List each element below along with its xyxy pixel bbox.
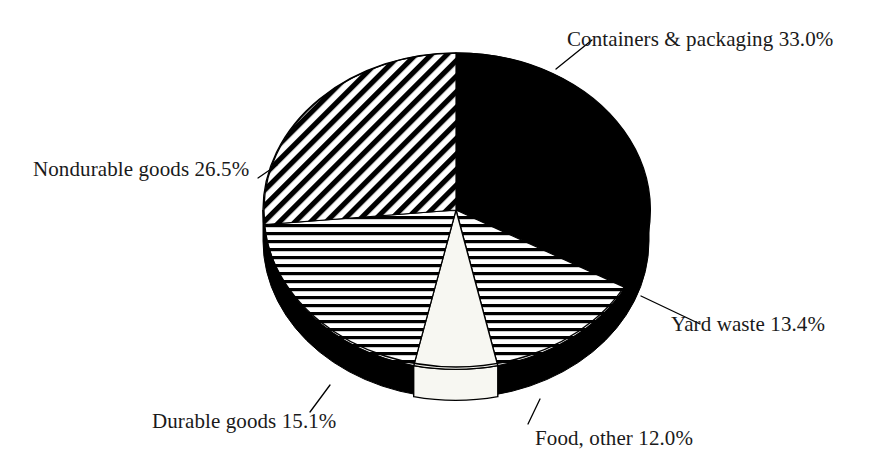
pie-slice-nondurable-goods[interactable] [264, 53, 456, 225]
leader-line-durable-goods [310, 385, 330, 412]
slice-label-containers-packaging: Containers & packaging 33.0% [567, 28, 833, 51]
chart-page: Containers & packaging 33.0% Nondurable … [0, 0, 889, 473]
pie-chart-figure [0, 0, 889, 473]
slice-label-food-other: Food, other 12.0% [535, 427, 693, 450]
slice-label-nondurable-goods: Nondurable goods 26.5% [33, 158, 249, 181]
pie-side-wall-food-other [414, 366, 498, 401]
pie-top-face [263, 53, 650, 369]
slice-label-durable-goods: Durable goods 15.1% [152, 410, 336, 433]
slice-label-yard-waste: Yard waste 13.4% [671, 313, 825, 336]
leader-line-food-other [528, 399, 540, 424]
